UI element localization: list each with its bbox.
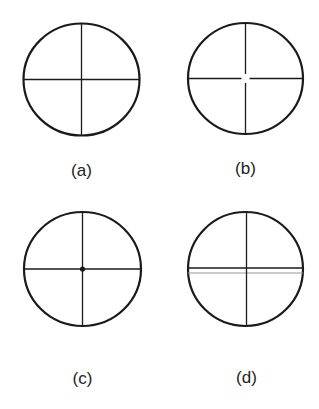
panel-b: (b)	[188, 23, 303, 178]
panel-a: (a)	[24, 24, 140, 181]
reticle-circle-d	[188, 212, 303, 326]
panel-c: (c)	[24, 212, 141, 388]
panel-label-a: (a)	[71, 161, 92, 180]
reticle-diagram-figure: (a) (b) (c) (d)	[0, 0, 319, 409]
panel-label-b: (b)	[235, 159, 256, 178]
panel-label-c: (c)	[73, 369, 93, 388]
panel-d: (d)	[188, 212, 303, 387]
center-dot-c	[80, 266, 85, 271]
panel-label-d: (d)	[236, 368, 257, 387]
